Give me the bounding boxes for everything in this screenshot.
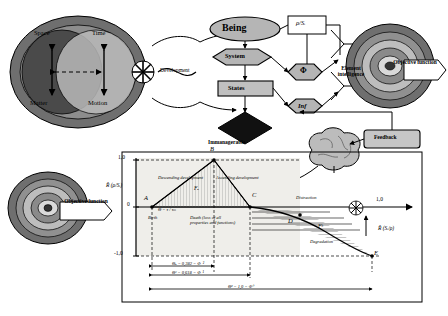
x-right-axis-label: R̃ (Sᵢ/ρ) <box>378 226 394 232</box>
point-A: A <box>144 195 148 202</box>
y-tick-neg1: -1,0 <box>114 251 123 257</box>
top-left-disc-group <box>10 16 154 128</box>
y-tick-0: 0 <box>127 202 130 208</box>
formula-theta-e: Θᵉ = 1,0 = Φ⁰ <box>228 285 254 290</box>
node-inf-label: Inf <box>298 103 306 110</box>
label-matter: Matter <box>30 100 47 107</box>
point-B: B <box>210 146 214 153</box>
node-element-intelligence-label: Element intelligence <box>330 66 372 78</box>
label-ascending-development: Ascending development <box>216 176 259 181</box>
label-death: Death (loss of all properties and functi… <box>190 216 238 225</box>
rho-si-box-shape <box>288 16 326 34</box>
point-C: C <box>252 192 256 199</box>
node-rho-si-label: ρ/Sᵢ <box>296 20 305 27</box>
top-objective-function-label: Objective function <box>390 60 440 66</box>
label-time: Time <box>92 30 106 37</box>
label-development: Development <box>160 68 190 74</box>
node-states-label: States <box>228 85 245 92</box>
label-space: Space <box>34 30 50 37</box>
states-node-shape <box>218 81 273 96</box>
diagram-artwork <box>0 0 448 316</box>
point-D: D <box>288 218 293 225</box>
diagram-canvas: Space Time Matter Motion Development Bei… <box>0 0 448 316</box>
formula-theta-a: Θₐ = 0,382 = Φ⁻² <box>172 262 204 267</box>
label-Fa: Fₐ <box>194 186 199 192</box>
formula-theta-c: Θᶜ = 0,618 = Φ⁻¹ <box>172 271 204 276</box>
x-right-value: 1,0 <box>376 197 383 203</box>
feedback-label: Feedback <box>374 135 397 141</box>
brain-illustration <box>309 128 360 173</box>
y-axis-label: R̃ (ρ/Sᵢ) <box>106 183 122 189</box>
point-E: E <box>374 250 378 257</box>
formula-theta-birth: Θ = τ / τₘ <box>158 208 176 213</box>
label-motion: Motion <box>88 100 107 107</box>
node-being-label: Being <box>222 23 246 33</box>
label-birth: Birth <box>148 216 157 221</box>
label-degradation: Degradation <box>310 240 333 245</box>
node-phi-label: Φ <box>300 67 307 75</box>
label-distraction: Distraction <box>296 196 317 201</box>
node-system-label: System <box>225 53 245 60</box>
bottom-objective-function-label: Objective function <box>62 199 110 205</box>
label-descending-development: Descending development <box>158 176 203 181</box>
y-tick-1: 1,0 <box>118 155 125 161</box>
label-Fb: Fᵇ <box>318 224 323 230</box>
bottom-left-disc-group <box>8 172 112 244</box>
